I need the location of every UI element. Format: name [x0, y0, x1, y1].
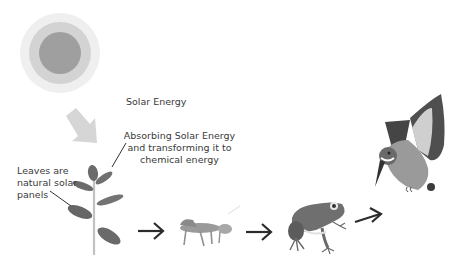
leaves-solar-panels-label: Leaves are natural solar panels	[17, 165, 77, 201]
leaves-line-1: Leaves are	[17, 165, 77, 177]
absorbing-line-3: chemical energy	[122, 154, 237, 166]
kingfisher-icon	[375, 94, 445, 192]
arrow-right-icon	[138, 223, 163, 239]
sun-icon	[20, 13, 100, 93]
frog-icon	[288, 202, 346, 254]
sun-to-plant-arrow-icon	[66, 108, 97, 143]
solar-energy-label: Solar Energy	[126, 96, 187, 108]
leaves-line-3: panels	[17, 189, 77, 201]
arrow-right-icon	[246, 224, 271, 240]
arrow-up-right-icon	[355, 208, 381, 222]
grasshopper-icon	[180, 206, 240, 246]
absorbing-solar-energy-label: Absorbing Solar Energy and transforming …	[122, 130, 237, 166]
leaves-line-2: natural solar	[17, 177, 77, 189]
food-chain-diagram: Solar Energy Absorbing Solar Energy and …	[0, 0, 467, 277]
absorbing-line-2: and transforming it to	[122, 142, 237, 154]
absorbing-line-1: Absorbing Solar Energy	[122, 130, 237, 142]
